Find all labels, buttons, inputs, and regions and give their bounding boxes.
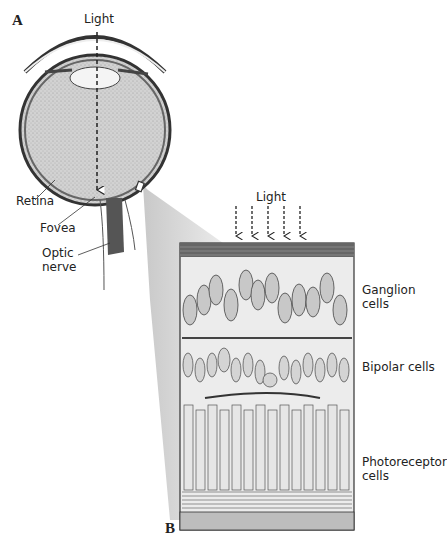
bipolar-label: Bipolar cells: [362, 360, 435, 374]
retina-label: Retina: [16, 194, 54, 208]
light-label-a: Light: [84, 12, 114, 26]
light-label-b: Light: [256, 190, 286, 204]
ganglion-label-line2: cells: [362, 297, 389, 311]
photoreceptor-label-line2: cells: [362, 469, 389, 483]
ganglion-label-line1: Ganglion: [362, 283, 416, 297]
panel-label-a: A: [12, 12, 23, 29]
panel-label-b: B: [165, 520, 175, 537]
optic-nerve-label-line1: Optic: [42, 246, 74, 260]
fovea-label: Fovea: [40, 221, 76, 235]
light-arrows-b: [236, 206, 300, 236]
photoreceptor-label-line1: Photoreceptor: [362, 455, 447, 469]
optic-nerve-label-line2: nerve: [42, 260, 76, 274]
retina-section: [180, 243, 354, 530]
